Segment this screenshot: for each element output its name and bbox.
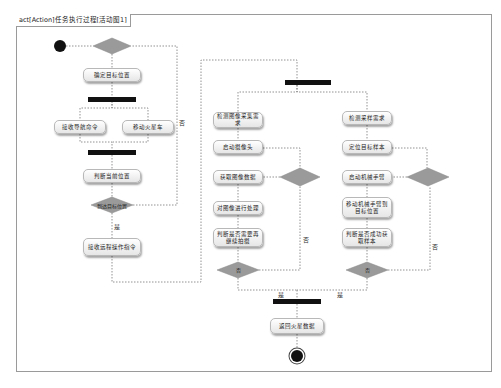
- action-detect-sample-need[interactable]: 检测采样需求: [342, 111, 392, 125]
- decision-merge-start: [93, 38, 131, 54]
- action-move-arm[interactable]: 移动机械手臂到目标位置: [342, 197, 392, 218]
- decision-arrived-label: 到达目标位置: [92, 202, 132, 209]
- guard-no: 否: [179, 118, 185, 127]
- edges-layer: [0, 0, 501, 388]
- guard-join-left: 是: [278, 290, 284, 299]
- guard-yes: 是: [114, 222, 120, 231]
- fork-bar-2: [285, 80, 331, 85]
- decision-sample-done-label: 否: [359, 266, 375, 273]
- action-determine-target[interactable]: 确定目标位置: [83, 68, 141, 82]
- action-process-image[interactable]: 对图像进行处理: [213, 201, 263, 215]
- initial-node: [54, 40, 66, 52]
- guard-sample-no: 否: [432, 242, 438, 251]
- action-judge-continue[interactable]: 判断是否需要再继续拍摄: [213, 228, 263, 247]
- action-get-image[interactable]: 获取图像数据: [213, 170, 263, 184]
- decision-image-done-label: 否: [230, 266, 246, 273]
- final-node: [291, 350, 303, 362]
- decision-image-loop: [280, 168, 320, 186]
- join-bar-1: [88, 150, 136, 155]
- guard-join-right: 是: [337, 290, 343, 299]
- action-judge-position[interactable]: 判断当前位置: [83, 169, 141, 183]
- join-bar-3: [273, 299, 321, 304]
- action-start-arm[interactable]: 启动机械手臂: [342, 170, 392, 184]
- fork-bar-1: [88, 97, 136, 102]
- action-judge-sample[interactable]: 判断是否成功获取样本: [342, 228, 392, 247]
- action-locate-sample[interactable]: 定位目标样本: [342, 140, 392, 154]
- decision-sample-loop: [407, 168, 449, 186]
- action-detect-image-need[interactable]: 检测图像采集需求: [213, 112, 263, 128]
- action-return-data[interactable]: 返回火星数据: [270, 318, 324, 334]
- guard-image-no: 否: [303, 235, 309, 244]
- action-move-rover[interactable]: 移动火星车: [122, 120, 174, 134]
- action-receive-remote[interactable]: 接收远程操作指令: [83, 238, 141, 256]
- action-start-camera[interactable]: 启动摄像头: [213, 140, 263, 154]
- action-receive-nav[interactable]: 接收导航命令: [54, 120, 106, 134]
